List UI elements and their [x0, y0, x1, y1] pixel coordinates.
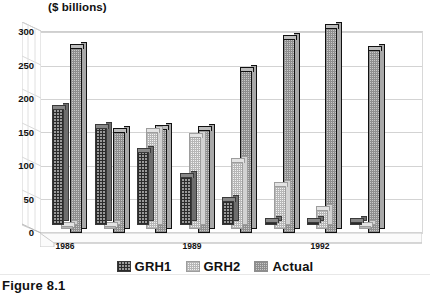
bar-grh2-1986[interactable] — [61, 226, 73, 229]
bar-grh2-1987[interactable] — [104, 226, 116, 229]
bar-front-face — [325, 28, 337, 233]
bar-grh1-1991[interactable] — [265, 222, 277, 225]
x-tick-1989: 1989 — [172, 241, 212, 251]
bar-grh1-1993[interactable] — [350, 222, 362, 225]
legend-item-grh1[interactable]: GRH1 — [117, 259, 172, 274]
legend-label-grh2: GRH2 — [204, 259, 241, 274]
x-tick-1986: 1986 — [45, 241, 85, 251]
gray-dots-swatch-icon — [254, 261, 268, 272]
bar-chart: ($ billions) — [0, 0, 430, 250]
bar-actual-1986[interactable] — [70, 48, 82, 233]
bar-front-face — [359, 226, 371, 229]
bar-grh1-1990[interactable] — [222, 201, 234, 225]
figure-caption: Figure 8.1 — [2, 278, 65, 293]
bar-grh1-1989[interactable] — [180, 177, 192, 225]
light-dots-swatch-icon — [186, 261, 200, 272]
bar-front-face — [350, 222, 362, 225]
legend-label-actual: Actual — [272, 259, 313, 274]
bar-series-layer — [0, 0, 430, 250]
bar-actual-1993[interactable] — [368, 50, 380, 233]
bar-front-face — [61, 226, 73, 229]
bar-front-face — [368, 50, 380, 233]
bar-front-face — [180, 177, 192, 225]
legend-item-grh2[interactable]: GRH2 — [186, 259, 241, 274]
bar-front-face — [104, 226, 116, 229]
dark-crosshatch-swatch-icon — [117, 261, 131, 272]
x-tick-1992: 1992 — [300, 241, 340, 251]
legend-item-actual[interactable]: Actual — [254, 259, 313, 274]
bar-front-face — [137, 152, 149, 225]
bar-actual-1992[interactable] — [325, 28, 337, 233]
figure-8-1: ($ billions) — [0, 0, 430, 298]
bar-front-face — [70, 48, 82, 233]
bar-grh1-1988[interactable] — [137, 152, 149, 225]
bar-grh2-1993[interactable] — [359, 226, 371, 229]
chart-legend: GRH1 GRH2 Actual — [0, 256, 430, 276]
bar-grh1-1992[interactable] — [307, 222, 319, 225]
bar-front-face — [113, 132, 125, 233]
bar-grh1-1986[interactable] — [52, 109, 64, 225]
bar-front-face — [52, 109, 64, 225]
legend-label-grh1: GRH1 — [135, 259, 172, 274]
bar-front-face — [95, 128, 107, 225]
bar-front-face — [307, 222, 319, 225]
bar-actual-1987[interactable] — [113, 132, 125, 233]
bar-front-face — [222, 201, 234, 225]
bar-front-face — [265, 222, 277, 225]
bar-grh1-1987[interactable] — [95, 128, 107, 225]
